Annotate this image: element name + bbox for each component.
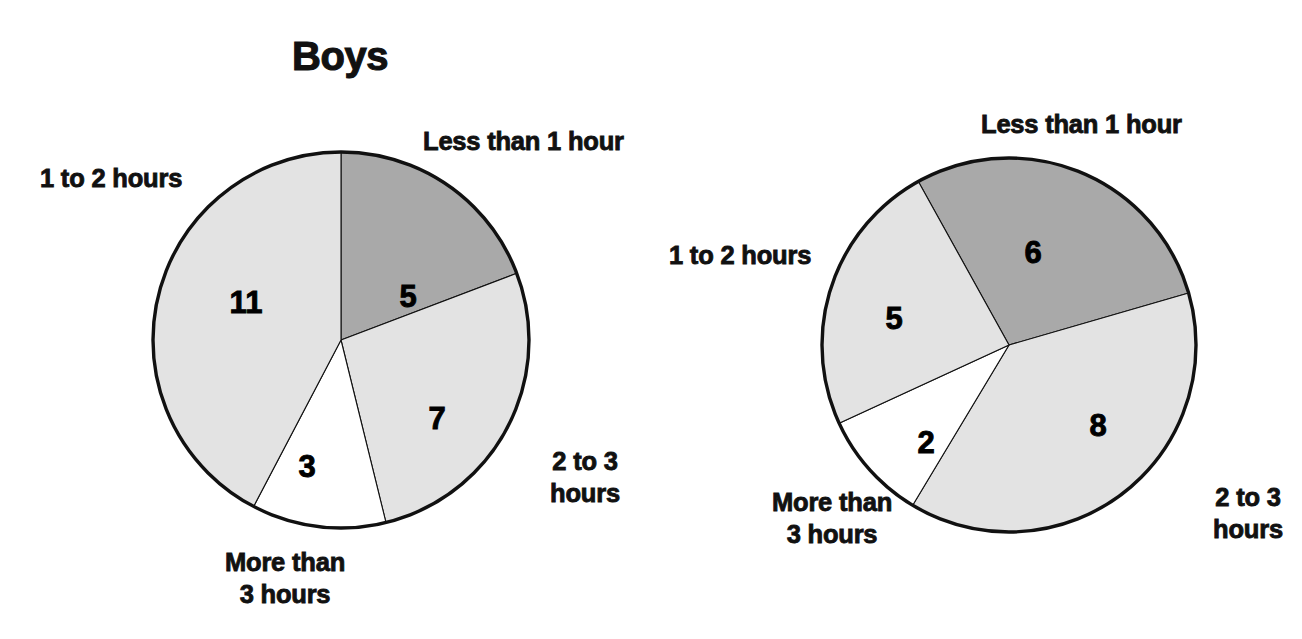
pie-value-boys-more-than-3-hours: 3 [298, 449, 315, 485]
chart-title-boys: Boys [200, 34, 480, 79]
pie-label-boys-1-to-2-hours: 1 to 2 hours [40, 162, 240, 194]
pie-value-girls-1-to-2-hours: 5 [885, 301, 902, 337]
pie-value-girls-2-to-3-hours: 8 [1089, 408, 1106, 444]
pie-label-boys-more-than-3-hours: More than 3 hours [185, 546, 385, 610]
pie-value-girls-more-than-3-hours: 2 [917, 425, 934, 461]
pie-label-girls-2-to-3-hours: 2 to 3 hours [1183, 481, 1302, 545]
pie-value-girls-less-than-1-hour: 6 [1024, 235, 1041, 271]
pie-value-boys-2-to-3-hours: 7 [428, 401, 445, 437]
chart-panel-boys: Boys [0, 0, 660, 639]
pie-value-boys-1-to-2-hours: 11 [230, 285, 263, 321]
pie-label-girls-1-to-2-hours: 1 to 2 hours [669, 239, 869, 271]
pie-label-girls-less-than-1-hour: Less than 1 hour [981, 108, 1241, 140]
pie-label-boys-2-to-3-hours: 2 to 3 hours [520, 445, 650, 509]
pie-label-boys-less-than-1-hour: Less than 1 hour [423, 125, 683, 157]
pie-label-girls-more-than-3-hours: More than 3 hours [732, 486, 932, 550]
chart-canvas: Boys Girls Less than 1 hour 1 to 2 hours… [0, 0, 1302, 639]
pie-value-boys-less-than-1-hour: 5 [399, 279, 416, 315]
